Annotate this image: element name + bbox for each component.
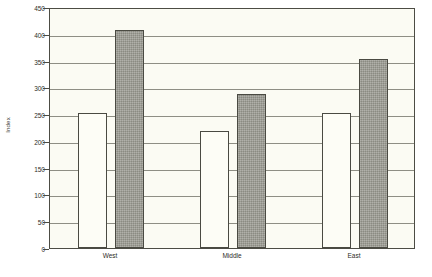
bar bbox=[359, 59, 388, 248]
y-axis-title: Index bbox=[0, 0, 16, 250]
bar bbox=[115, 30, 144, 249]
plot-area bbox=[49, 8, 415, 249]
y-axis-tick-mark bbox=[43, 249, 49, 250]
x-axis-category-labels: WestMiddleEast bbox=[49, 252, 415, 268]
bar bbox=[322, 113, 351, 248]
x-axis-category-label: Middle bbox=[222, 252, 241, 259]
bar-chart-figure: Index 050100150200250300350400450 WestMi… bbox=[0, 0, 432, 277]
y-axis-title-label: Index bbox=[5, 117, 11, 133]
bar bbox=[200, 131, 229, 248]
bars-layer bbox=[50, 9, 414, 248]
bar bbox=[78, 113, 107, 248]
bar bbox=[237, 94, 266, 248]
x-axis-category-label: West bbox=[103, 252, 118, 259]
x-axis-category-label: East bbox=[347, 252, 360, 259]
